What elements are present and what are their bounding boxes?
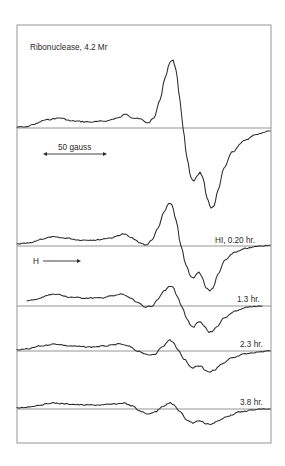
spectrum-trace-4 bbox=[17, 403, 270, 425]
trace-label-2-3hr: 2.3 hr. bbox=[240, 340, 263, 349]
arrow-right-icon bbox=[103, 152, 107, 156]
spectrum-trace-1 bbox=[17, 203, 270, 291]
spectrum-trace-2 bbox=[27, 287, 262, 333]
field-label-h: H bbox=[33, 257, 39, 266]
spectrum-trace-3 bbox=[17, 340, 270, 372]
scale-bar-50-gauss: 50 gauss bbox=[43, 143, 107, 156]
plot-frame bbox=[17, 25, 271, 443]
esr-spectra-figure: Ribonuclease, 4.2 Mr 50 gauss H HI, 0.20… bbox=[0, 0, 285, 466]
spectrum-trace-0 bbox=[17, 60, 270, 208]
trace-label-1-3hr: 1.3 hr. bbox=[237, 295, 260, 304]
trace-label-0-20hr: HI, 0.20 hr. bbox=[215, 236, 255, 245]
arrow-right-icon bbox=[77, 259, 81, 263]
arrow-left-icon bbox=[43, 152, 47, 156]
baselines bbox=[17, 128, 271, 409]
chart-title: Ribonuclease, 4.2 Mr bbox=[30, 43, 108, 52]
field-direction-arrow: H bbox=[33, 257, 81, 266]
trace-label-3-8hr: 3.8 hr. bbox=[240, 398, 263, 407]
scale-bar-label: 50 gauss bbox=[58, 143, 91, 152]
